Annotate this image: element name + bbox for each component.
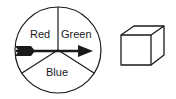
section-label-red: Red [30, 28, 50, 40]
diagram-canvas: Red Green Blue [0, 0, 176, 99]
section-label-green: Green [61, 28, 92, 40]
section-label-blue: Blue [46, 66, 68, 78]
arrow-icon [15, 45, 93, 57]
cube-icon [121, 26, 164, 65]
